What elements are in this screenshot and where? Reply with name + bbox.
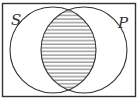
venn-diagram: S P [0, 0, 140, 105]
set-p-label: P [117, 14, 129, 32]
set-s-label: S [11, 11, 21, 29]
